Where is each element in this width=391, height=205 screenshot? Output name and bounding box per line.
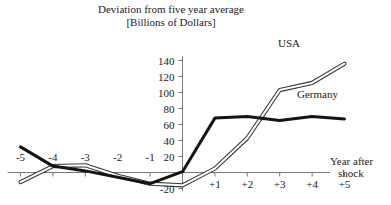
x-tick-label: +4 [299,178,325,190]
x-tick-label: +3 [267,178,293,190]
x-axis-title: Year after shock [330,155,390,179]
chart-figure: Deviation from five year average [Billio… [0,0,391,205]
series-label-usa: USA [278,37,300,49]
x-axis-title-line1: Year after [330,155,373,167]
series-label-germany: Germany [297,88,338,100]
x-axis-title-line2: shock [330,167,390,179]
y-tick-label: 60 [149,119,175,131]
x-tick-label: -1 [137,151,163,163]
x-tick-label: -3 [72,151,98,163]
x-tick-label: -2 [105,151,131,163]
x-tick-label: +5 [332,178,358,190]
y-tick-label: 80 [149,103,175,115]
x-tick-label: -4 [40,151,66,163]
y-tick-label: 100 [149,87,175,99]
y-tick-label: 120 [149,71,175,83]
axes-group [8,57,345,191]
y-tick-label: 140 [149,55,175,67]
x-tick-label: -5 [8,151,34,163]
y-tick-label: 40 [149,135,175,147]
x-tick-label: +1 [202,178,228,190]
y-tick-label: -20 [149,183,175,195]
x-tick-label: +2 [234,178,260,190]
